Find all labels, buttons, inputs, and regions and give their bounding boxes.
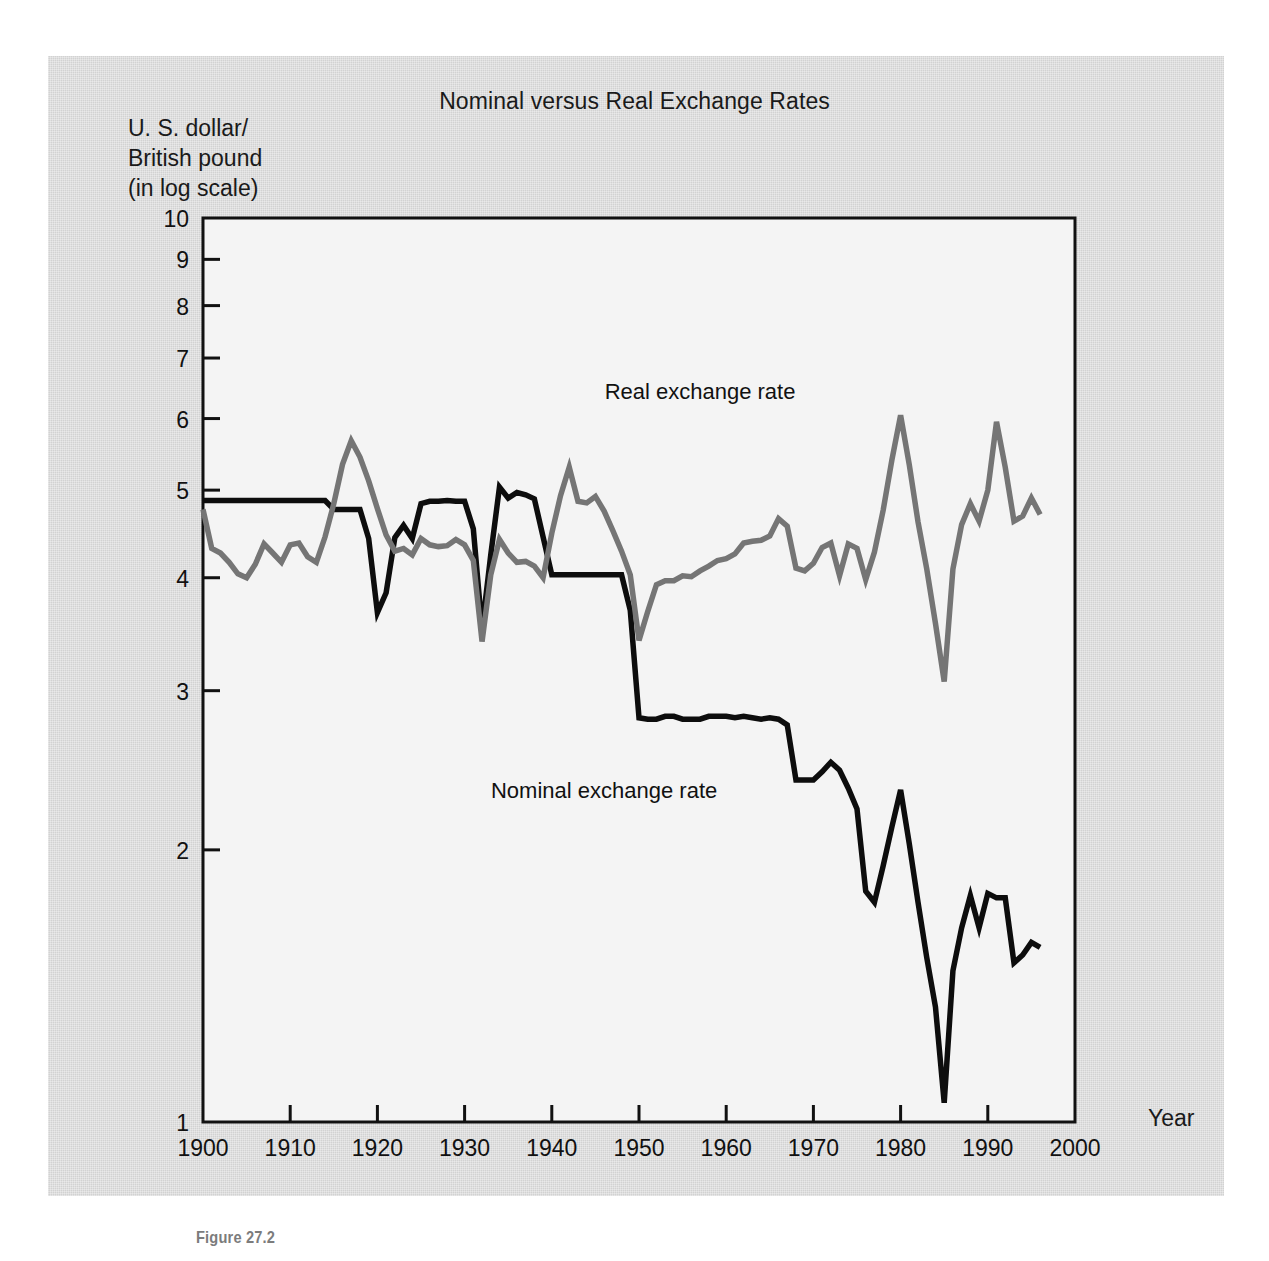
- svg-text:7: 7: [176, 346, 189, 372]
- figure-container: Nominal versus Real Exchange Rates U. S.…: [0, 0, 1269, 1261]
- svg-text:1970: 1970: [788, 1135, 839, 1161]
- svg-text:3: 3: [176, 679, 189, 705]
- svg-text:1980: 1980: [875, 1135, 926, 1161]
- svg-text:1900: 1900: [177, 1135, 228, 1161]
- svg-text:1: 1: [176, 1110, 189, 1136]
- svg-text:9: 9: [176, 247, 189, 273]
- plot-area: 12345678910 1900191019201930194019501960…: [0, 0, 1269, 1261]
- svg-text:2: 2: [176, 838, 189, 864]
- svg-text:8: 8: [176, 294, 189, 320]
- svg-text:Real exchange rate: Real exchange rate: [605, 379, 796, 404]
- svg-text:5: 5: [176, 478, 189, 504]
- svg-text:1920: 1920: [352, 1135, 403, 1161]
- svg-text:1930: 1930: [439, 1135, 490, 1161]
- svg-text:1960: 1960: [701, 1135, 752, 1161]
- svg-text:1950: 1950: [613, 1135, 664, 1161]
- svg-text:1940: 1940: [526, 1135, 577, 1161]
- svg-text:1990: 1990: [962, 1135, 1013, 1161]
- figure-caption: Figure 27.2: [196, 1228, 275, 1248]
- svg-text:2000: 2000: [1049, 1135, 1100, 1161]
- svg-text:6: 6: [176, 407, 189, 433]
- svg-text:Nominal exchange rate: Nominal exchange rate: [491, 778, 717, 803]
- svg-text:10: 10: [163, 206, 189, 232]
- svg-text:1910: 1910: [265, 1135, 316, 1161]
- svg-text:4: 4: [176, 566, 189, 592]
